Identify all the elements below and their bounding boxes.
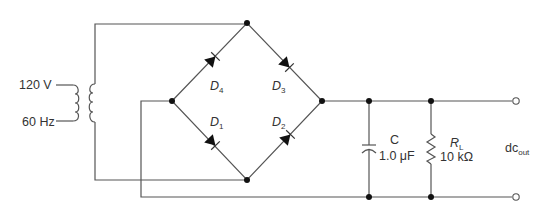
node-bottom: [244, 177, 250, 183]
output-terminal-positive: [513, 98, 519, 104]
primary-coil: [73, 85, 79, 121]
transformer: [56, 84, 95, 122]
capacitor-name-label: C: [390, 133, 399, 147]
node-cap-bottom: [366, 194, 372, 200]
node-top: [244, 20, 250, 26]
resistor-value-label: 10 kΩ: [440, 150, 473, 164]
output-terminal-negative: [513, 194, 519, 200]
resistor-zigzag: [427, 134, 435, 164]
capacitor-value-label: 1.0 μF: [379, 149, 415, 163]
rectifier-circuit-diagram: 120 V 60 Hz D4 D3 D1 D2: [0, 0, 545, 221]
secondary-top-wire: [95, 24, 247, 84]
node-right: [319, 98, 325, 104]
label-d2: D2: [272, 115, 286, 131]
node-res-top: [428, 98, 434, 104]
source-frequency-label: 60 Hz: [22, 115, 55, 129]
node-left: [169, 98, 175, 104]
node-cap-top: [366, 98, 372, 104]
output-label: dcout: [505, 141, 530, 157]
label-d3: D3: [272, 79, 286, 95]
label-d1: D1: [210, 115, 224, 131]
label-d4: D4: [210, 79, 224, 95]
source-voltage-label: 120 V: [19, 78, 52, 92]
bridge-diamond: [172, 23, 322, 180]
node-res-bottom: [428, 194, 434, 200]
capacitor: [362, 101, 376, 197]
resistor: [427, 101, 435, 197]
secondary-coil: [89, 84, 95, 122]
secondary-bottom-wire: [95, 122, 247, 180]
